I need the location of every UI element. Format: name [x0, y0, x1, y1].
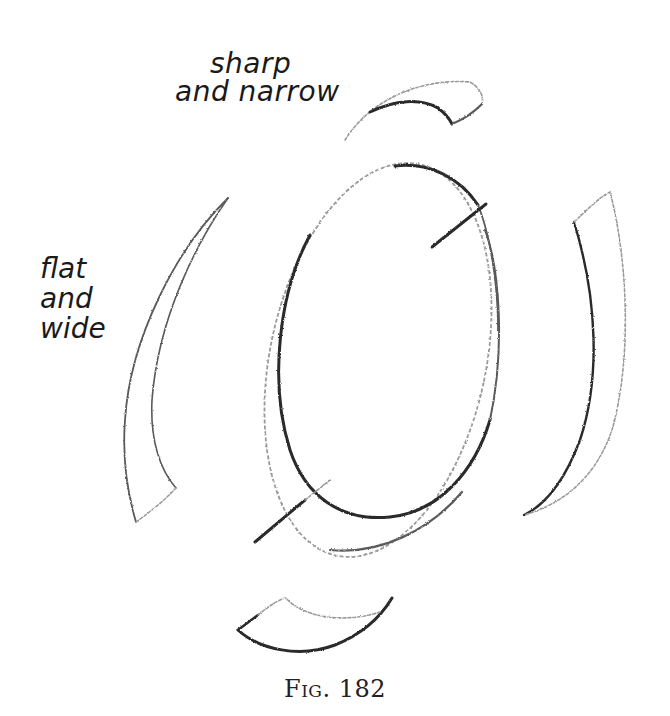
label-and: and: [40, 284, 106, 314]
top-arc: [345, 82, 483, 140]
figure-illustration: sharp and narrow flat and wide Fig. 182: [0, 0, 670, 716]
left-arc: [124, 198, 228, 522]
central-ellipse: [279, 165, 499, 550]
bottom-arc: [238, 598, 392, 651]
right-arc: [524, 192, 625, 515]
label-sharp: sharp: [210, 50, 291, 78]
label-wide: wide: [40, 314, 106, 344]
label-flat: flat: [40, 254, 106, 284]
figure-caption: Fig. 182: [0, 675, 670, 703]
label-and-narrow: and narrow: [175, 78, 340, 106]
axis-line: [255, 204, 486, 542]
label-flat-and-wide: flat and wide: [40, 254, 106, 344]
